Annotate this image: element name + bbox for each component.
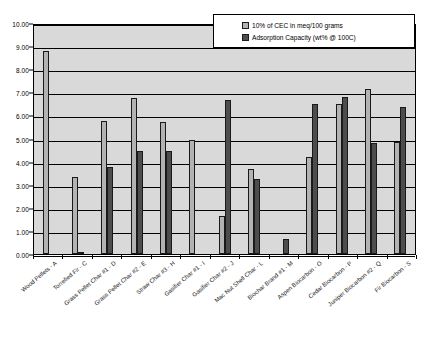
x-axis-tick-mark	[180, 255, 181, 259]
x-axis-tick-mark	[151, 255, 152, 259]
x-axis-tick-mark	[269, 255, 270, 259]
bar-group	[210, 25, 239, 254]
legend-item-series-2: Adsorption Capacity (wt% @ 100C)	[242, 34, 408, 41]
bar	[166, 151, 172, 254]
x-axis-tick-mark	[298, 255, 299, 259]
bar	[72, 177, 78, 254]
x-axis-tick-mark	[239, 255, 240, 259]
plot-area	[33, 24, 416, 255]
bar-group	[151, 25, 180, 254]
x-axis-tick-label: Grass Pellet Char #1 - D	[63, 260, 117, 307]
bar	[225, 100, 231, 254]
legend-item-series-1: 10% of CEC in meq/100 grams	[242, 22, 408, 29]
bar-group	[298, 25, 327, 254]
y-axis-tick-label: 10.00	[12, 21, 29, 28]
bars-layer	[34, 25, 415, 254]
bar-group	[239, 25, 268, 254]
x-axis-tick-mark	[357, 255, 358, 259]
x-axis-tick-mark	[33, 255, 34, 259]
y-axis-tick-label: 2.00	[16, 205, 29, 212]
bar	[137, 151, 143, 254]
bar	[342, 97, 348, 254]
x-axis-tick-mark	[92, 255, 93, 259]
bar-group	[269, 25, 298, 254]
y-axis-tick-label: 0.00	[16, 252, 29, 259]
y-axis-tick-label: 5.00	[16, 136, 29, 143]
y-axis-tick-label: 8.00	[16, 67, 29, 74]
y-axis-tick-label: 4.00	[16, 159, 29, 166]
x-axis-tick-label: Grass Pellet Char #2 - E	[93, 260, 147, 306]
bar	[371, 143, 377, 254]
bar-group	[122, 25, 151, 254]
y-axis-tick-label: 6.00	[16, 113, 29, 120]
bar-group	[386, 25, 415, 254]
bar-chart: 0.001.002.003.004.005.006.007.008.009.00…	[0, 0, 425, 340]
x-axis: Wood Pellets - ATorrefied Fir - CGrass P…	[33, 255, 416, 340]
legend-swatch-icon-series-1	[242, 22, 249, 29]
bar-group	[34, 25, 63, 254]
bar-group	[63, 25, 92, 254]
bar	[312, 104, 318, 254]
legend-label-series-1: 10% of CEC in meq/100 grams	[252, 22, 343, 29]
y-axis-tick-label: 3.00	[16, 182, 29, 189]
x-axis-tick-mark	[210, 255, 211, 259]
x-axis-tick-mark	[416, 255, 417, 259]
chart-legend: 10% of CEC in meq/100 grams Adsorption C…	[213, 14, 415, 48]
y-axis-tick-label: 1.00	[16, 228, 29, 235]
bar-group	[93, 25, 122, 254]
x-axis-tick-label: Juniper Biocarbon #2 - Q	[327, 260, 382, 307]
bar-group	[356, 25, 385, 254]
x-axis-tick-mark	[62, 255, 63, 259]
bar	[400, 107, 406, 254]
bar	[107, 167, 113, 254]
y-axis-tick-label: 9.00	[16, 44, 29, 51]
bar	[254, 179, 260, 254]
bar-group	[181, 25, 210, 254]
legend-swatch-icon-series-2	[242, 34, 249, 41]
bar-group	[327, 25, 356, 254]
bar	[283, 239, 289, 254]
bar	[43, 51, 49, 254]
legend-label-series-2: Adsorption Capacity (wt% @ 100C)	[252, 34, 356, 41]
x-axis-tick-mark	[121, 255, 122, 259]
bar	[189, 140, 195, 254]
y-axis-tick-label: 7.00	[16, 90, 29, 97]
bar	[78, 252, 84, 254]
y-axis: 0.001.002.003.004.005.006.007.008.009.00…	[0, 24, 33, 255]
x-axis-tick-mark	[387, 255, 388, 259]
x-axis-tick-mark	[328, 255, 329, 259]
